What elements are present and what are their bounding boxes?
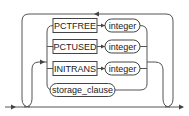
svg-text:integer: integer	[109, 42, 137, 52]
keyword-initrans: INITRANS	[53, 62, 97, 76]
right-rail	[115, 26, 147, 91]
keyword-pctfree: PCTFREE	[53, 19, 97, 33]
svg-text:PCTUSED: PCTUSED	[53, 42, 97, 52]
svg-text:storage_clause: storage_clause	[52, 85, 113, 95]
param-integer-3: integer	[105, 62, 140, 75]
choice-entry	[24, 62, 47, 107]
nonterminal-storage-clause: storage_clause	[50, 84, 115, 97]
param-integer-1: integer	[105, 19, 140, 32]
svg-text:integer: integer	[109, 21, 137, 31]
choice-arrow-icon	[40, 60, 45, 65]
exit-arrow-icon	[179, 105, 184, 110]
loop-arrow-icon	[94, 12, 99, 17]
svg-text:PCTFREE: PCTFREE	[54, 21, 96, 31]
svg-text:INITRANS: INITRANS	[54, 64, 96, 74]
choice-exit	[147, 62, 170, 107]
param-integer-2: integer	[105, 40, 140, 53]
left-rail	[47, 26, 53, 91]
svg-text:integer: integer	[109, 64, 137, 74]
entry-arrow-icon	[11, 105, 16, 110]
syntax-diagram: PCTFREE integer PCTUSED integer INITRANS…	[0, 0, 189, 116]
keyword-pctused: PCTUSED	[53, 40, 97, 54]
